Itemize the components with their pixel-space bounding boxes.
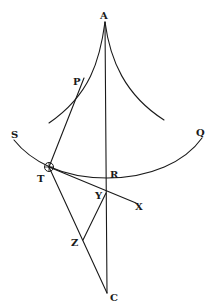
line-TC [49,167,107,293]
geometric-diagram: A P S Q T R Y X Z C [0,0,217,308]
left-cusp-branch [49,22,105,123]
point-T-marker [45,163,54,172]
right-cusp-branch [105,22,164,120]
label-S: S [11,129,18,140]
arc-SQ [14,138,202,178]
line-TX [49,167,136,203]
label-R: R [110,169,119,180]
line-TP [49,78,84,167]
label-Q: Q [196,127,205,138]
label-A: A [99,10,108,21]
label-Z: Z [71,237,78,248]
label-T: T [37,173,45,184]
line-AC [105,22,107,293]
label-P: P [73,76,81,87]
label-X: X [135,201,143,212]
label-C: C [110,292,118,303]
label-Y: Y [94,190,103,201]
